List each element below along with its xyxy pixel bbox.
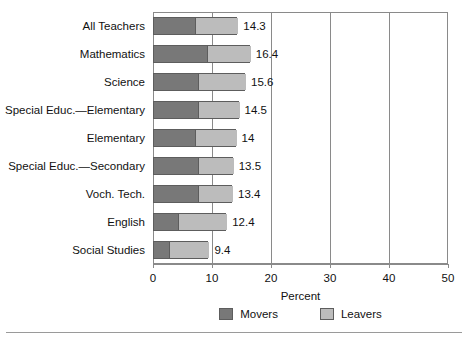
bar-segment-movers	[154, 130, 195, 146]
bars-layer: 14.316.415.614.51413.513.412.49.4	[153, 12, 448, 264]
bar-row: 14.3	[153, 17, 448, 35]
stacked-bar	[153, 157, 233, 175]
category-label: Social Studies	[72, 241, 145, 259]
category-label: All Teachers	[83, 17, 145, 35]
legend-swatch-movers	[219, 308, 233, 320]
bar-segment-leavers	[207, 46, 251, 62]
bar-segment-movers	[154, 46, 207, 62]
x-tick	[448, 264, 449, 268]
bar-row: 15.6	[153, 73, 448, 91]
bar-segment-movers	[154, 74, 198, 90]
bar-segment-leavers	[169, 242, 209, 258]
bar-segment-movers	[154, 18, 195, 34]
bar-segment-leavers	[195, 130, 236, 146]
bar-row: 14	[153, 129, 448, 147]
x-axis-title: Percent	[153, 290, 448, 302]
x-tick	[271, 264, 272, 268]
stacked-bar	[153, 129, 236, 147]
bar-row: 16.4	[153, 45, 448, 63]
x-tick-label: 40	[369, 271, 409, 285]
bar-row: 13.5	[153, 157, 448, 175]
bar-row: 13.4	[153, 185, 448, 203]
bar-value-label: 14	[242, 129, 255, 147]
chart-legend: Movers Leavers	[153, 308, 448, 320]
category-label: Elementary	[87, 129, 145, 147]
legend-label-leavers: Leavers	[341, 308, 382, 320]
stacked-bar	[153, 17, 237, 35]
x-tick	[389, 264, 390, 268]
bar-row: 9.4	[153, 241, 448, 259]
x-tick-label: 50	[428, 271, 468, 285]
bar-segment-leavers	[198, 186, 233, 202]
bar-segment-leavers	[198, 102, 240, 118]
category-axis-labels: All TeachersMathematicsScienceSpecial Ed…	[0, 12, 149, 264]
category-label: English	[107, 213, 145, 231]
stacked-bar	[153, 185, 232, 203]
category-label: Voch. Tech.	[86, 185, 145, 203]
bar-segment-movers	[154, 102, 198, 118]
stacked-bar	[153, 45, 250, 63]
footer-divider	[6, 332, 462, 333]
x-tick	[153, 264, 154, 268]
bar-value-label: 14.5	[245, 101, 267, 119]
stacked-bar	[153, 241, 208, 259]
bar-value-label: 13.4	[238, 185, 260, 203]
stacked-bar	[153, 73, 245, 91]
bar-segment-movers	[154, 242, 169, 258]
bar-segment-movers	[154, 186, 198, 202]
x-tick-label: 20	[251, 271, 291, 285]
stacked-bar	[153, 101, 239, 119]
x-tick-label: 10	[192, 271, 232, 285]
bar-segment-movers	[154, 158, 198, 174]
stacked-bar	[153, 213, 226, 231]
category-label: Science	[104, 73, 145, 91]
bar-segment-movers	[154, 214, 178, 230]
category-label: Mathematics	[80, 45, 145, 63]
legend-label-movers: Movers	[240, 308, 278, 320]
x-tick-label: 30	[310, 271, 350, 285]
legend-item-movers: Movers	[219, 308, 278, 320]
bar-value-label: 14.3	[243, 17, 265, 35]
x-axis-line	[153, 264, 448, 265]
x-tick	[330, 264, 331, 268]
bar-value-label: 13.5	[239, 157, 261, 175]
bar-value-label: 9.4	[214, 241, 230, 259]
legend-item-leavers: Leavers	[320, 308, 382, 320]
category-label: Special Educ.—Secondary	[8, 157, 145, 175]
bar-segment-leavers	[195, 18, 239, 34]
bar-value-label: 16.4	[256, 45, 278, 63]
bar-value-label: 12.4	[232, 213, 254, 231]
bar-segment-leavers	[198, 158, 234, 174]
category-label: Special Educ.—Elementary	[5, 101, 145, 119]
bar-segment-leavers	[198, 74, 246, 90]
legend-swatch-leavers	[320, 308, 334, 320]
x-tick-label: 0	[133, 271, 173, 285]
stacked-bar-chart: All TeachersMathematicsScienceSpecial Ed…	[0, 0, 468, 342]
bar-segment-leavers	[178, 214, 227, 230]
bar-row: 14.5	[153, 101, 448, 119]
bar-row: 12.4	[153, 213, 448, 231]
bar-value-label: 15.6	[251, 73, 273, 91]
x-tick	[212, 264, 213, 268]
